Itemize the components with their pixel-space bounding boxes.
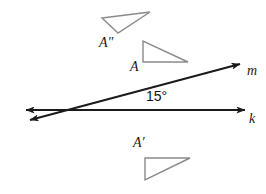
triangle-A xyxy=(143,41,188,62)
triangle-A-double-prime-label: A″ xyxy=(99,36,113,50)
triangle-A-label: A xyxy=(130,60,139,74)
triangle-A-prime xyxy=(145,158,190,180)
line-k-label: k xyxy=(249,112,255,126)
line-m-label: m xyxy=(247,64,257,78)
figure-canvas xyxy=(0,0,266,194)
angle-measure-label: 15° xyxy=(146,89,167,103)
triangle-A-prime-label: A′ xyxy=(133,136,145,150)
geometry-figure: A″ A A′ m k 15° xyxy=(0,0,266,194)
triangle-A-double-prime xyxy=(102,12,150,33)
